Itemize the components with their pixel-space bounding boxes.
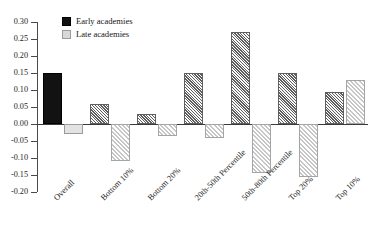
legend-label: Early academies — [76, 16, 133, 26]
bar-early — [278, 73, 297, 124]
bar-late — [111, 124, 130, 161]
legend-label: Late academies — [76, 29, 129, 39]
y-axis-tick: 0.20 — [31, 56, 37, 57]
y-axis-tick-label: 0.15 — [14, 67, 31, 78]
y-axis-tick: -0.15 — [31, 175, 37, 176]
dark-square-icon — [62, 17, 71, 26]
light-square-icon — [62, 30, 71, 39]
y-axis-tick-label: 0.10 — [14, 84, 31, 95]
y-axis-tick-label: 0.20 — [14, 50, 31, 61]
y-axis-tick-label: -0.10 — [11, 152, 31, 163]
legend-item-late: Late academies — [62, 28, 133, 40]
y-axis-tick: 0.10 — [31, 90, 37, 91]
y-axis-tick: 0.30 — [31, 22, 37, 23]
y-axis-tick: 0.05 — [31, 107, 37, 108]
y-axis-tick-label: 0.25 — [14, 33, 31, 44]
y-axis-tick: -0.10 — [31, 158, 37, 159]
bar-late — [158, 124, 177, 136]
bar-early — [43, 73, 62, 124]
legend: Early academies Late academies — [62, 15, 133, 41]
y-axis-tick: 0.15 — [31, 73, 37, 74]
y-axis-tick-label: 0.05 — [14, 101, 31, 112]
y-axis-tick-label: 0.00 — [14, 118, 31, 129]
bar-late — [205, 124, 224, 138]
y-axis-tick: -0.05 — [31, 141, 37, 142]
bar-late — [299, 124, 318, 177]
plot-area — [38, 22, 368, 192]
bar-chart: 0.300.250.200.150.100.050.00-0.05-0.10-0… — [0, 0, 375, 244]
bar-late — [64, 124, 83, 134]
y-axis-tick: -0.20 — [31, 192, 37, 193]
y-axis-tick-label: 0.30 — [14, 16, 31, 27]
bar-early — [90, 104, 109, 124]
bar-early — [137, 114, 156, 124]
y-axis-tick: 0.25 — [31, 39, 37, 40]
legend-item-early: Early academies — [62, 15, 133, 27]
bar-early — [325, 92, 344, 124]
bar-early — [184, 73, 203, 124]
y-axis-tick-label: -0.20 — [11, 186, 31, 197]
y-axis-tick-label: -0.15 — [11, 169, 31, 180]
y-axis-tick: 0.00 — [31, 124, 37, 125]
bar-early — [231, 32, 250, 124]
bar-late — [346, 80, 365, 124]
y-axis-tick-label: -0.05 — [11, 135, 31, 146]
